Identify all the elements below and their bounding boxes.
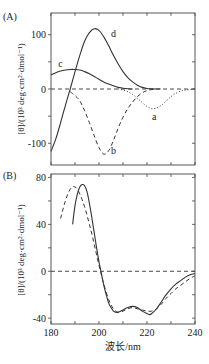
panel-a-label: (A) xyxy=(3,11,17,23)
x-tick-label: 180 xyxy=(44,327,59,338)
panel-b-x-axis-label: 波长/nm xyxy=(105,340,141,352)
cd-spectra-figure: (A) [θ]/(10³ deg·cm²·dmol⁻¹) abcd -10001… xyxy=(0,0,209,364)
y-tick-label: 0 xyxy=(41,266,46,277)
curve-label-d: d xyxy=(111,28,116,39)
y-tick-label: 100 xyxy=(31,29,46,40)
series-line-dashed xyxy=(61,187,195,313)
panel-a-y-axis-label: [θ]/(10³ deg·cm²·dmol⁻¹) xyxy=(16,43,26,134)
x-tick-label: 220 xyxy=(140,327,155,338)
curve-label-c: c xyxy=(58,58,63,69)
y-tick-label: 40 xyxy=(36,219,46,230)
panel-a: (A) [θ]/(10³ deg·cm²·dmol⁻¹) abcd -10001… xyxy=(3,11,195,165)
y-tick-label: -40 xyxy=(33,313,46,324)
panel-b-y-axis-label: [θ]/(10³ deg·cm²·dmol⁻¹) xyxy=(16,204,26,295)
series-line-solid xyxy=(73,184,195,314)
curve-label-a: a xyxy=(152,111,157,122)
panel-b-label: (B) xyxy=(3,170,16,182)
x-tick-label: 240 xyxy=(188,327,203,338)
x-tick-label: 200 xyxy=(92,327,107,338)
series-line-c xyxy=(51,69,133,89)
panel-b: (B) [θ]/(10³ deg·cm²·dmol⁻¹) 波长/nm 18020… xyxy=(3,170,203,352)
panel-b-frame xyxy=(51,174,195,324)
y-tick-label: 80 xyxy=(36,172,46,183)
y-tick-label: 0 xyxy=(41,84,46,95)
y-tick-label: -100 xyxy=(28,138,46,149)
curve-label-b: b xyxy=(111,145,116,156)
series-line-d xyxy=(51,29,157,152)
